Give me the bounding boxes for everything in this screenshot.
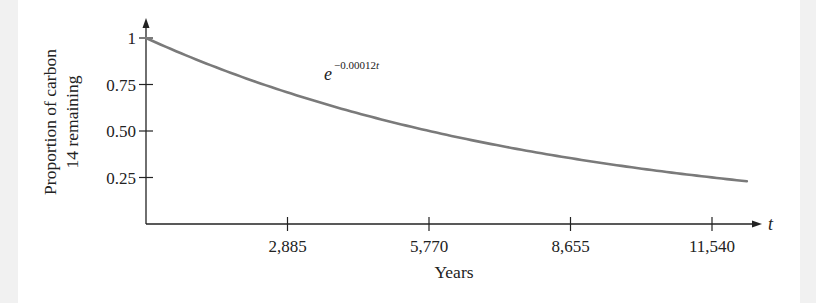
- y-tick-label: 1: [128, 29, 137, 48]
- y-axis: [143, 18, 150, 224]
- y-axis-title-line-2: 14 remaining: [62, 75, 82, 168]
- x-axis-variable-label: t: [768, 214, 774, 234]
- x-axis-title: Years: [434, 262, 473, 282]
- y-axis-title: Proportion of carbon 14 remaining: [40, 49, 82, 195]
- formula-base: e: [324, 64, 332, 84]
- x-ticks: 2,8855,7708,65511,540: [268, 217, 735, 256]
- y-tick-label: 0.50: [106, 122, 136, 141]
- x-tick-label: 11,540: [689, 237, 735, 256]
- decay-curve: [146, 38, 747, 181]
- x-axis-arrow-icon: [752, 221, 762, 228]
- formula-exponent: −0.00012t: [334, 59, 380, 71]
- y-axis-arrow-icon: [143, 18, 150, 28]
- y-axis-title-line-1: Proportion of carbon: [40, 49, 60, 195]
- y-tick-label: 0.75: [106, 76, 136, 95]
- exponential-decay-chart: t 10.750.500.25 2,8855,7708,65511,540 Pr…: [18, 0, 800, 303]
- chart-page: t 10.750.500.25 2,8855,7708,65511,540 Pr…: [18, 0, 800, 303]
- x-axis: [146, 221, 762, 228]
- curve-formula-label: e −0.00012t: [324, 59, 380, 84]
- y-tick-label: 0.25: [106, 169, 136, 188]
- x-tick-label: 2,885: [268, 237, 306, 256]
- x-tick-label: 5,770: [410, 237, 448, 256]
- x-tick-label: 8,655: [551, 237, 589, 256]
